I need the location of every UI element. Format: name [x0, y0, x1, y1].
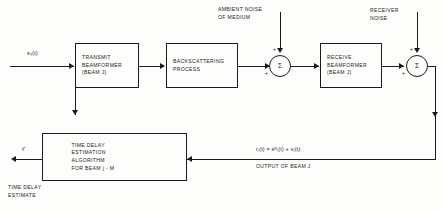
backscattering-line-1: BACKSCATTERING — [173, 58, 237, 66]
block-time-delay-estimation[interactable]: TIME DELAY ESTIMATION ALGORITHM FOR BEAM… — [42, 133, 187, 181]
block-transmit-beamformer[interactable]: TRANSMIT BEAMFORMER (BEAM J) — [75, 43, 139, 88]
input-arrowhead — [69, 63, 74, 69]
receive-beamformer-line-1: RECEIVE — [327, 54, 381, 62]
time-delay-estimate-label-line-1: TIME DELAY — [8, 184, 41, 192]
ambient-noise-label-line-2: OF MEDIUM — [218, 14, 250, 22]
backscatter-input-arrowhead — [160, 63, 165, 69]
receiver-summer-sigma: Σ — [415, 63, 419, 70]
medium-summer-plus-top: + — [273, 47, 276, 52]
feedback-horizontal-arrowhead — [187, 156, 192, 162]
transmit-signal-label: sT(t) — [27, 50, 38, 56]
time-delay-estimate-arrowhead — [11, 156, 16, 162]
receiver-summer-input-arrowhead — [399, 63, 404, 69]
output-of-beam-label: OUTPUT OF BEAM J — [256, 163, 311, 171]
receiver-summer-plus-top: + — [410, 47, 413, 52]
ambient-noise-line — [280, 12, 281, 50]
transmit-beamformer-line-2: BEAMFORMER — [82, 62, 138, 70]
block-backscattering-process[interactable]: BACKSCATTERING PROCESS — [166, 43, 238, 88]
tau-hat-symbol: τ̂ — [17, 146, 29, 152]
tde-line-3: ALGORITHM — [72, 157, 158, 165]
tde-line-2: ESTIMATION — [72, 149, 158, 157]
signal-flow-diagram: sT(t) TRANSMIT BEAMFORMER (BEAM J) BACKS… — [0, 0, 444, 212]
transmit-signal-argument: (t) — [32, 50, 38, 56]
beam-output-equation: rⱼ(t) = sᴿⱼ(t) + vⱼ(t) — [256, 146, 300, 152]
ambient-noise-arrowhead — [277, 48, 283, 53]
transmit-beamformer-line-1: TRANSMIT — [82, 54, 138, 62]
tde-line-4: FOR BEAM j - M — [72, 165, 158, 173]
receiver-summer-plus-left: + — [402, 71, 405, 76]
reference-tap-vertical-line — [75, 66, 76, 115]
receive-beamformer-line-2: BEAMFORMER — [327, 62, 381, 70]
reference-tap-arrowhead — [72, 110, 78, 115]
summing-junction-medium[interactable]: Σ — [269, 55, 291, 77]
time-delay-estimate-label-line-2: ESTIMATE — [8, 192, 36, 200]
time-delay-estimate-line — [14, 159, 42, 160]
medium-summer-plus-left: + — [265, 71, 268, 76]
receiver-noise-label-line-2: NOISE — [370, 15, 388, 23]
tde-line-1: TIME DELAY — [72, 142, 158, 150]
block-receive-beamformer[interactable]: RECEIVE BEAMFORMER (BEAM J) — [320, 43, 382, 88]
input-line — [10, 66, 74, 67]
medium-summer-sigma: Σ — [278, 63, 282, 70]
transmit-beamformer-line-3: (BEAM J) — [82, 69, 138, 77]
receive-bf-input-arrowhead — [314, 63, 319, 69]
feedback-line-horizontal — [187, 159, 436, 160]
receiver-noise-arrowhead — [414, 48, 420, 53]
summing-junction-receiver[interactable]: Σ — [406, 55, 428, 77]
receiver-noise-label-line-1: RECEIVER — [370, 7, 399, 15]
receive-beamformer-line-3: (BEAM J) — [327, 69, 381, 77]
backscattering-line-2: PROCESS — [173, 66, 237, 74]
transmit-signal-subscript: T — [30, 53, 32, 57]
feedback-vertical-arrowhead — [432, 112, 438, 117]
receiver-noise-line — [417, 12, 418, 50]
ambient-noise-label-line-1: AMBIENT NOISE — [218, 6, 262, 14]
